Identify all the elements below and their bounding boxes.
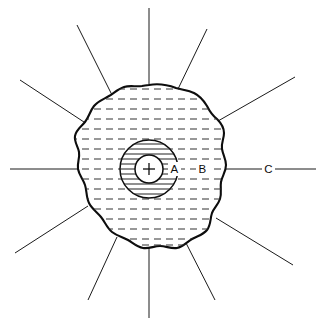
ray-line-sse <box>185 241 215 300</box>
ray-line-sw <box>15 206 88 253</box>
zone-b-label: B <box>199 163 207 175</box>
ray-line-nne <box>178 29 207 89</box>
zone-c-label: C <box>264 163 273 175</box>
ray-line-se <box>216 218 293 265</box>
ray-line-nw <box>20 80 87 124</box>
ray-line-ssw <box>88 237 117 300</box>
ray-line-nnw <box>77 25 112 95</box>
figure-container: A B C <box>0 0 325 326</box>
zone-a-label: A <box>171 163 179 175</box>
zoned-body-diagram: A B C <box>0 0 325 326</box>
